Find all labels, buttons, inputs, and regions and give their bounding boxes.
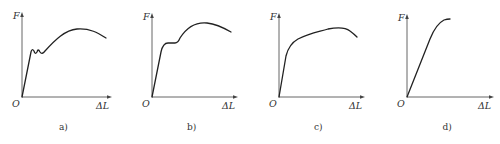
figure-svg: FOΔLa)FOΔLb)FOΔLc)FOΔLd)	[0, 0, 500, 144]
y-axis-arrow-icon	[405, 14, 409, 19]
x-axis-label: ΔL	[221, 100, 235, 111]
y-axis-arrow-icon	[277, 13, 281, 18]
panel-caption: b)	[187, 122, 196, 132]
y-axis-arrow-icon	[150, 13, 154, 18]
y-axis-arrow-icon	[20, 12, 24, 17]
panel-caption: c)	[314, 122, 323, 132]
x-axis-arrow-icon	[107, 95, 112, 99]
y-axis-label: F	[397, 12, 405, 23]
panel-d: FOΔLd)	[397, 12, 494, 132]
force-elongation-curve	[407, 19, 450, 97]
origin-label: O	[142, 98, 150, 109]
force-elongation-curve	[279, 28, 357, 97]
y-axis-label: F	[269, 11, 277, 22]
panel-caption: d)	[443, 122, 452, 132]
origin-label: O	[269, 98, 277, 109]
x-axis-label: ΔL	[95, 100, 109, 111]
origin-label: O	[397, 98, 405, 109]
x-axis-arrow-icon	[489, 95, 494, 99]
x-axis-label: ΔL	[348, 100, 362, 111]
stress-strain-figure: FOΔLa)FOΔLb)FOΔLc)FOΔLd)	[0, 0, 500, 144]
panel-caption: a)	[59, 122, 68, 132]
x-axis-arrow-icon	[233, 95, 238, 99]
x-axis-label: ΔL	[477, 100, 491, 111]
force-elongation-curve	[22, 29, 106, 97]
y-axis-label: F	[12, 10, 20, 21]
panel-b: FOΔLb)	[142, 11, 238, 132]
panel-c: FOΔLc)	[269, 11, 365, 132]
x-axis-arrow-icon	[360, 95, 365, 99]
origin-label: O	[12, 98, 20, 109]
force-elongation-curve	[152, 23, 231, 97]
y-axis-label: F	[142, 11, 150, 22]
panel-a: FOΔLa)	[12, 10, 112, 132]
